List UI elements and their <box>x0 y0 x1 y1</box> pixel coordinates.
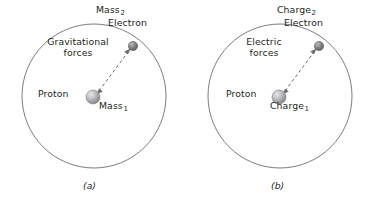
electron-label: Electron <box>284 18 323 29</box>
electron-sphere <box>128 41 137 50</box>
panel-a-graphics <box>0 0 188 205</box>
force-label: Gravitationalforces <box>37 37 119 58</box>
panel-caption-b: (b) <box>271 180 284 191</box>
charge-2-label: Charge2 <box>277 5 316 16</box>
proton-sphere <box>86 90 100 104</box>
proton-label: Proton <box>38 89 69 100</box>
panel-gravitational: Mass2 Electron Gravitationalforces Proto… <box>0 0 188 205</box>
panel-electric: Charge2 Electron Electricforces Proton C… <box>188 0 376 205</box>
proton-label: Proton <box>226 89 257 100</box>
mass-1-label: Mass1 <box>99 101 128 112</box>
electron-label: Electron <box>108 18 147 29</box>
force-label: Electricforces <box>228 37 300 58</box>
electron-sphere <box>314 41 323 50</box>
charge-1-label: Charge1 <box>270 101 309 112</box>
panel-caption-a: (a) <box>83 180 96 191</box>
figure-container: Mass2 Electron Gravitationalforces Proto… <box>0 0 376 205</box>
mass-2-label: Mass2 <box>96 5 125 16</box>
